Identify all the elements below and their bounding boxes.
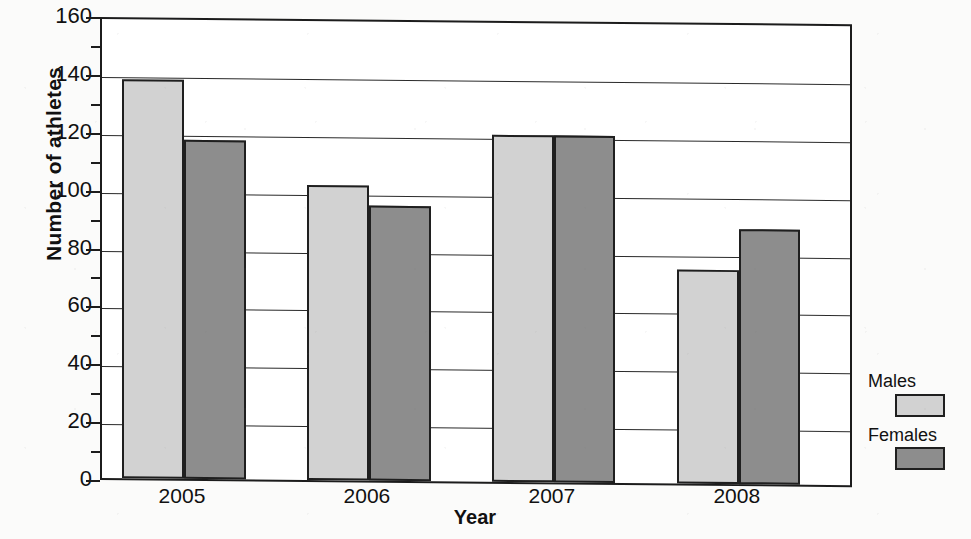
y-tick-major	[86, 306, 100, 308]
y-tick-major	[86, 133, 100, 135]
y-tick-major	[86, 480, 100, 482]
bar-2005-females	[184, 140, 246, 479]
legend-entry-females: Females	[862, 425, 971, 471]
y-axis-tick-labels: 020406080100120140160	[24, 0, 92, 539]
plot-area	[100, 17, 852, 487]
y-tick-label: 40	[32, 352, 92, 374]
y-tick-minor	[91, 335, 100, 337]
legend-label: Females	[862, 425, 971, 446]
y-tick-minor	[91, 220, 100, 222]
x-tick-label-2006: 2006	[307, 484, 427, 508]
bar-2008-females	[739, 229, 801, 484]
y-tick-label: 120	[32, 121, 92, 143]
y-tick-major	[86, 249, 100, 251]
bar-2007-females	[554, 135, 616, 483]
gridline	[102, 77, 850, 85]
x-axis-title: Year	[400, 506, 550, 529]
y-tick-label: 160	[32, 5, 92, 27]
y-tick-minor	[91, 277, 100, 279]
legend-swatch	[895, 394, 945, 417]
y-tick-minor	[91, 393, 100, 395]
bar-2006-females	[369, 206, 431, 481]
y-tick-minor	[91, 46, 100, 48]
plot-inner	[102, 19, 850, 485]
bar-2006-males	[307, 185, 369, 481]
y-tick-major	[86, 422, 100, 424]
bar-2005-males	[122, 79, 184, 479]
legend-label: Males	[862, 371, 971, 392]
bar-2008-males	[677, 269, 739, 484]
y-tick-label: 80	[32, 237, 92, 259]
y-tick-major	[86, 191, 100, 193]
x-tick-label-2007: 2007	[492, 484, 612, 508]
y-tick-label: 20	[32, 410, 92, 432]
y-tick-minor	[91, 104, 100, 106]
y-tick-minor	[91, 162, 100, 164]
y-tick-minor	[91, 451, 100, 453]
y-tick-label: 100	[32, 179, 92, 201]
legend-entry-males: Males	[862, 371, 971, 417]
y-tick-label: 0	[32, 468, 92, 490]
legend-swatch	[895, 447, 945, 470]
y-tick-label: 60	[32, 294, 92, 316]
chart-legend: MalesFemales	[862, 371, 971, 478]
y-tick-label: 140	[32, 63, 92, 85]
y-tick-major	[86, 364, 100, 366]
bar-chart-figure: Number of athletes 020406080100120140160…	[0, 0, 971, 539]
x-tick-label-2005: 2005	[122, 484, 242, 508]
y-tick-major	[86, 17, 100, 19]
bar-2007-males	[492, 135, 554, 483]
x-tick-label-2008: 2008	[677, 484, 797, 508]
y-tick-major	[86, 75, 100, 77]
